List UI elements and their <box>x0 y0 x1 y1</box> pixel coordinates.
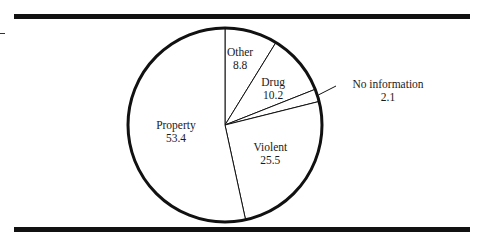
pie-chart: Other8.8Drug10.2No information2.1Violent… <box>0 0 492 238</box>
slice-label-no-information: No information <box>352 78 423 90</box>
slice-value-no-information: 2.1 <box>381 91 396 103</box>
slice-label-other: Other <box>227 46 253 58</box>
slice-value-other: 8.8 <box>233 59 248 71</box>
slice-label-drug: Drug <box>261 76 285 89</box>
slice-value-violent: 25.5 <box>260 154 280 166</box>
slice-label-violent: Violent <box>253 141 288 153</box>
slice-value-property: 53.4 <box>166 132 186 144</box>
slice-value-drug: 10.2 <box>263 89 283 101</box>
leader-line-no-information <box>318 86 336 95</box>
slice-label-property: Property <box>156 119 196 132</box>
